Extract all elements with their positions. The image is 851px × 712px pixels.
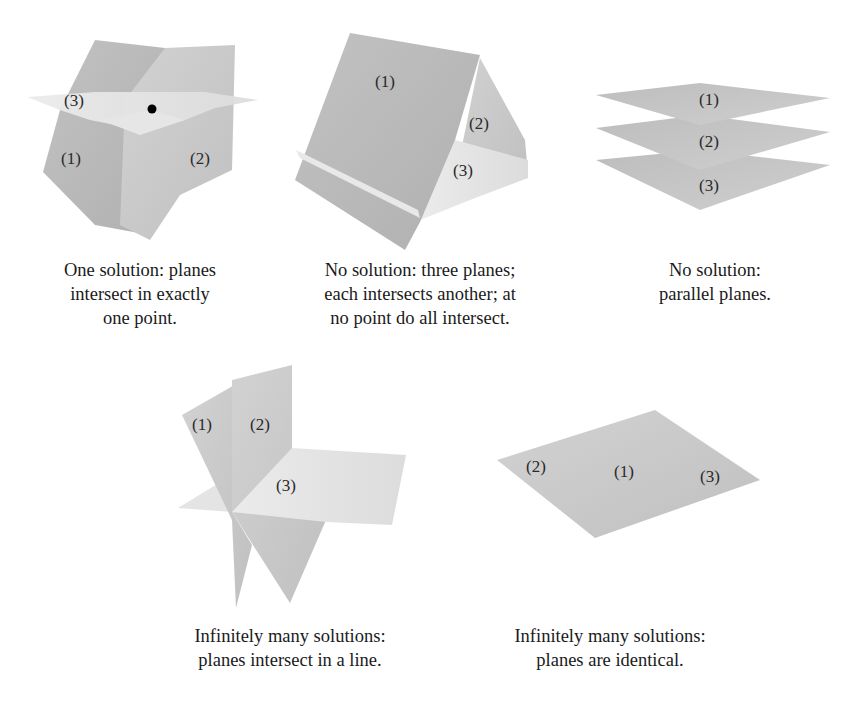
plane-label: (2) <box>526 457 546 476</box>
caption-line: intersect in exactly <box>20 282 260 306</box>
caption-line: each intersects another; at <box>280 282 560 306</box>
plane-label: (3) <box>276 476 296 495</box>
planes-diagram: (3) (1) (2) (1) (2) (3) (1) (2) (3) (1) … <box>0 0 851 712</box>
caption-line: no point do all intersect. <box>280 306 560 330</box>
plane-label: (3) <box>699 176 719 195</box>
plane-label: (3) <box>453 161 473 180</box>
caption-line: parallel planes. <box>600 282 830 306</box>
caption-line: Infinitely many solutions: <box>160 624 420 648</box>
caption-line: Infinitely many solutions: <box>480 624 740 648</box>
caption-line: one point. <box>20 306 260 330</box>
caption-no-solution-pairwise: No solution: three planes; each intersec… <box>280 258 560 330</box>
plane-label: (1) <box>375 72 395 91</box>
caption-line: No solution: three planes; <box>280 258 560 282</box>
panel-one-solution: (3) (1) (2) <box>27 40 258 240</box>
plane-label: (1) <box>61 149 81 168</box>
caption-line: planes are identical. <box>480 648 740 672</box>
plane-label: (2) <box>469 114 489 133</box>
plane-label: (3) <box>700 467 720 486</box>
plane-label: (1) <box>699 90 719 109</box>
caption-line: planes intersect in a line. <box>160 648 420 672</box>
plane-label: (1) <box>614 462 634 481</box>
panel-infinite-line: (1) (2) (3) <box>178 365 406 608</box>
panel-infinite-identical: (2) (1) (3) <box>497 410 760 538</box>
plane-label: (1) <box>192 415 212 434</box>
caption-infinite-identical: Infinitely many solutions: planes are id… <box>480 624 740 672</box>
caption-no-solution-parallel: No solution: parallel planes. <box>600 258 830 306</box>
plane-label: (2) <box>250 415 270 434</box>
caption-line: One solution: planes <box>20 258 260 282</box>
intersection-point <box>148 105 157 114</box>
caption-one-solution: One solution: planes intersect in exactl… <box>20 258 260 330</box>
panel-no-solution-pairwise: (1) (2) (3) <box>295 33 528 250</box>
plane-label: (2) <box>699 132 719 151</box>
caption-infinite-line: Infinitely many solutions: planes inters… <box>160 624 420 672</box>
panel-no-solution-parallel: (1) (2) (3) <box>596 83 830 210</box>
plane-1 <box>295 33 480 250</box>
plane-label: (3) <box>64 91 84 110</box>
caption-line: No solution: <box>600 258 830 282</box>
plane-label: (2) <box>190 149 210 168</box>
